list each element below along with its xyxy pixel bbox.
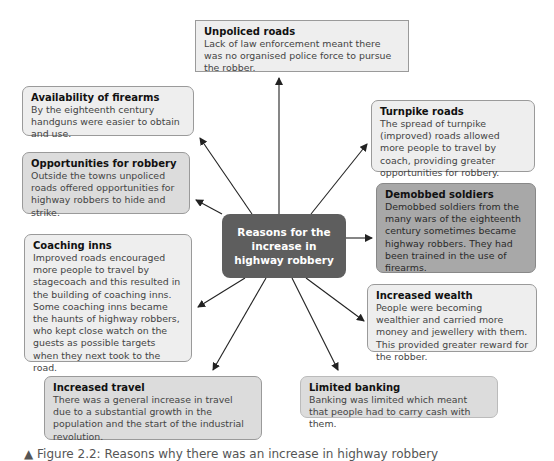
box-body: Outside the towns unpoliced roads offere…	[31, 170, 181, 219]
box-turnpike-roads: Turnpike roads The spread of turnpike (i…	[371, 100, 535, 172]
box-title: Limited banking	[309, 381, 489, 394]
box-body: There was a general increase in travel d…	[53, 394, 253, 443]
box-title: Increased wealth	[376, 289, 528, 302]
arrow-to-turnpike-roads	[311, 144, 367, 214]
box-title: Turnpike roads	[380, 105, 526, 118]
box-increased-wealth: Increased wealth People were becoming we…	[367, 284, 537, 352]
box-title: Increased travel	[53, 381, 253, 394]
central-topic: Reasons for the increase in highway robb…	[222, 214, 346, 278]
box-increased-travel: Increased travel There was a general inc…	[44, 376, 262, 440]
figure-caption: ▲ Figure 2.2: Reasons why there was an i…	[24, 447, 438, 461]
arrow-to-limited-banking	[292, 278, 338, 370]
arrow-to-availability-of-firearms	[200, 138, 252, 214]
box-title: Opportunities for robbery	[31, 157, 181, 170]
central-topic-label: Reasons for the increase in highway robb…	[228, 225, 340, 267]
box-limited-banking: Limited banking Banking was limited whic…	[300, 376, 498, 418]
arrow-to-opportunities-for-robbery	[196, 200, 222, 214]
box-title: Unpoliced roads	[204, 25, 400, 38]
box-body: The spread of turnpike (improved) roads …	[380, 118, 526, 179]
box-availability-of-firearms: Availability of firearms By the eighteen…	[22, 86, 194, 136]
box-unpoliced-roads: Unpoliced roads Lack of law enforcement …	[195, 20, 409, 72]
box-coaching-inns: Coaching inns Improved roads encouraged …	[24, 234, 192, 362]
box-body: Demobbed soldiers from the many wars of …	[385, 201, 527, 274]
arrow-to-increased-travel	[213, 278, 266, 370]
box-demobbed-soldiers: Demobbed soldiers Demobbed soldiers from…	[376, 183, 536, 273]
arrow-to-coaching-inns	[198, 278, 245, 307]
box-body: People were becoming wealthier and carri…	[376, 302, 528, 363]
box-body: Improved roads encouraged more people to…	[33, 252, 183, 374]
box-title: Availability of firearms	[31, 91, 185, 104]
box-body: By the eighteenth century handguns were …	[31, 104, 185, 141]
box-body: Lack of law enforcement meant there was …	[204, 38, 400, 75]
box-title: Demobbed soldiers	[385, 188, 527, 201]
box-opportunities-for-robbery: Opportunities for robbery Outside the to…	[22, 152, 190, 214]
arrow-to-increased-wealth	[306, 278, 364, 321]
box-body: Banking was limited which meant that peo…	[309, 394, 489, 431]
box-title: Coaching inns	[33, 239, 183, 252]
